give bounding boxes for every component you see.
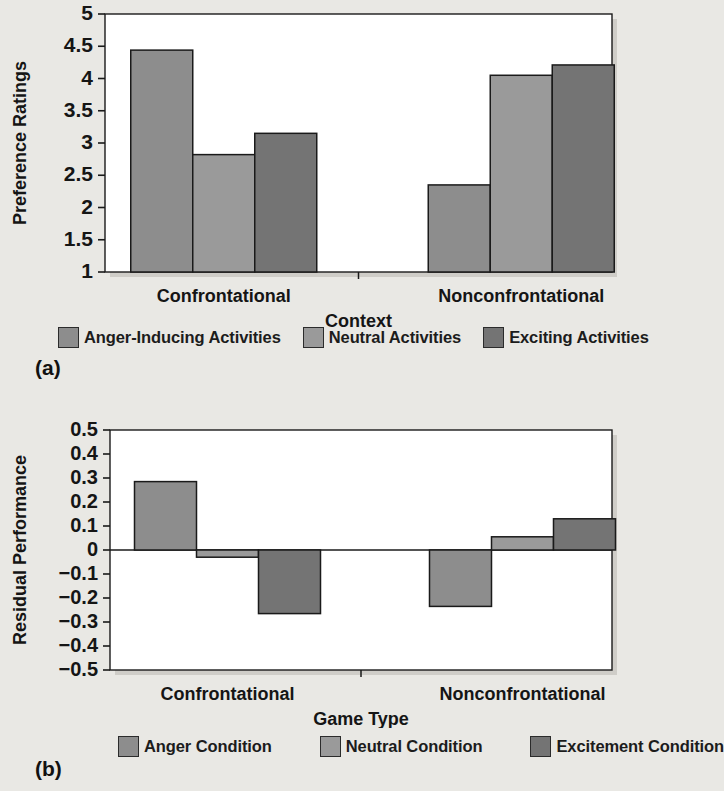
svg-text:Residual Performance: Residual Performance	[10, 455, 30, 645]
svg-text:−0.1: −0.1	[59, 562, 98, 584]
svg-text:3.5: 3.5	[64, 98, 94, 121]
legend-item-label: Excitement Condition	[556, 738, 724, 755]
svg-text:−0.2: −0.2	[59, 586, 98, 608]
svg-text:Nonconfrontational: Nonconfrontational	[440, 684, 606, 704]
svg-text:Preference Ratings: Preference Ratings	[10, 61, 30, 225]
legend-item[interactable]: Exciting Activities	[483, 327, 649, 348]
legend-item[interactable]: Anger-Inducing Activities	[58, 327, 281, 348]
chart-b-legend: Anger Condition Neutral Condition Excite…	[118, 736, 724, 757]
svg-text:0: 0	[87, 538, 98, 560]
svg-text:2.5: 2.5	[64, 162, 94, 185]
panel-b: 0.50.40.30.20.10−0.1−0.2−0.3−0.4−0.5Conf…	[0, 398, 640, 791]
legend-swatch-icon	[320, 736, 341, 757]
svg-text:Confrontational: Confrontational	[157, 286, 291, 306]
svg-text:0.1: 0.1	[70, 514, 98, 536]
legend-item-label: Neutral Activities	[329, 329, 461, 346]
svg-text:5: 5	[81, 1, 93, 24]
legend-item[interactable]: Anger Condition	[118, 736, 272, 757]
chart-a: 11.522.533.544.55ConfrontationalNonconfr…	[0, 0, 640, 330]
svg-text:1: 1	[81, 259, 93, 282]
svg-text:2: 2	[81, 195, 93, 218]
legend-swatch-icon	[118, 736, 139, 757]
svg-text:3: 3	[81, 130, 93, 153]
svg-text:−0.5: −0.5	[59, 658, 98, 680]
svg-text:0.4: 0.4	[70, 442, 99, 464]
legend-swatch-icon	[483, 327, 504, 348]
legend-item-label: Exciting Activities	[509, 329, 649, 346]
svg-text:0.5: 0.5	[70, 418, 98, 440]
svg-text:0.2: 0.2	[70, 490, 98, 512]
svg-text:4: 4	[81, 66, 93, 89]
svg-text:4.5: 4.5	[64, 33, 94, 56]
chart-a-legend: Anger-Inducing Activities Neutral Activi…	[58, 327, 649, 348]
legend-swatch-icon	[303, 327, 324, 348]
legend-item-label: Anger-Inducing Activities	[84, 329, 281, 346]
legend-item[interactable]: Excitement Condition	[530, 736, 724, 757]
svg-text:Nonconfrontational: Nonconfrontational	[438, 286, 604, 306]
svg-text:−0.3: −0.3	[59, 610, 98, 632]
svg-text:1.5: 1.5	[64, 227, 94, 250]
svg-text:−0.4: −0.4	[59, 634, 99, 656]
legend-item-label: Neutral Condition	[346, 738, 483, 755]
panel-letter-b: (b)	[35, 757, 62, 781]
legend-item-label: Anger Condition	[144, 738, 272, 755]
svg-text:0.3: 0.3	[70, 466, 98, 488]
legend-swatch-icon	[58, 327, 79, 348]
svg-text:Confrontational: Confrontational	[161, 684, 295, 704]
legend-item[interactable]: Neutral Activities	[303, 327, 461, 348]
legend-swatch-icon	[530, 736, 551, 757]
panel-letter-a: (a)	[35, 356, 61, 380]
legend-item[interactable]: Neutral Condition	[320, 736, 483, 757]
chart-b: 0.50.40.30.20.10−0.1−0.2−0.3−0.4−0.5Conf…	[0, 398, 640, 728]
svg-text:Game Type: Game Type	[313, 709, 409, 728]
